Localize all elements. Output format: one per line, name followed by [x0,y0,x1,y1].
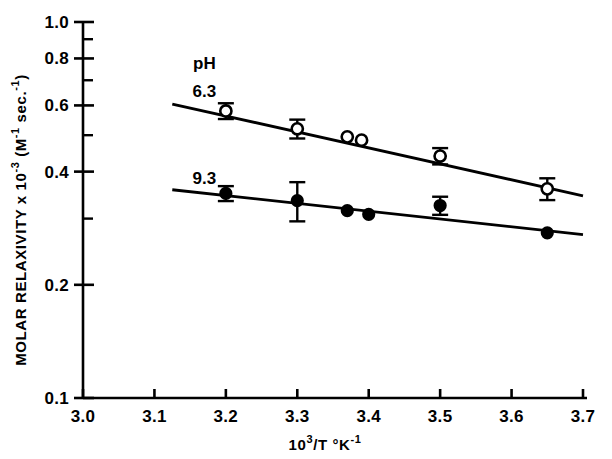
data-point-ph63 [356,135,367,146]
chart-canvas: 1.00.80.60.40.20.13.03.13.23.33.43.53.63… [0,0,612,459]
x-tick-label: 3.0 [71,407,96,426]
data-point-ph63 [220,105,231,116]
x-tick-label: 3.6 [499,407,524,426]
data-point-ph93 [342,205,353,216]
y-tick-label: 0.8 [44,49,69,68]
x-tick-label: 3.2 [214,407,239,426]
data-point-ph93 [435,200,446,211]
x-tick-label: 3.1 [142,407,167,426]
x-axis-title: 103/T °K-1 [289,433,362,453]
x-tick-label: 3.3 [285,407,310,426]
data-point-ph93 [220,188,231,199]
y-tick-label: 0.2 [44,276,69,295]
chart-figure: 1.00.80.60.40.20.13.03.13.23.33.43.53.63… [0,0,612,459]
x-tick-label: 3.7 [571,407,596,426]
x-tick-label: 3.5 [428,407,453,426]
y-tick-label: 0.4 [44,163,69,182]
x-tick-label: 3.4 [356,407,381,426]
data-point-ph93 [292,195,303,206]
y-tick-label: 1.0 [44,13,69,32]
data-point-ph93 [363,209,374,220]
annotation-6-3: 6.3 [193,82,217,101]
y-tick-label: 0.6 [44,96,69,115]
data-point-ph63 [542,183,553,194]
data-point-ph63 [342,131,353,142]
annotation-9-3: 9.3 [193,169,217,188]
y-axis-title: MOLAR RELAXIVITY x 10-3 (M-1 sec.-1) [9,74,29,366]
fit-line-1 [172,104,583,196]
fit-line-2 [172,190,583,235]
annotation-pH: pH [193,54,216,73]
data-point-ph63 [292,123,303,134]
y-tick-label: 0.1 [44,389,69,408]
data-point-ph93 [542,227,553,238]
data-point-ph63 [435,150,446,161]
